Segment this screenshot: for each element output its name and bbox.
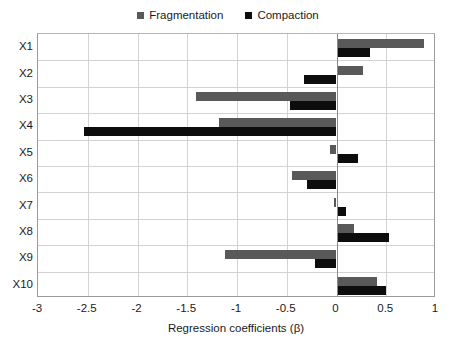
- y-axis-label-x8: X8: [0, 225, 33, 237]
- legend-swatch-fragmentation: [137, 12, 144, 19]
- chart-legend: Fragmentation Compaction: [0, 6, 456, 24]
- legend-swatch-compaction: [245, 12, 252, 19]
- x-axis-tick-labels: -3-2.5-2-1.5-1-0.500.51: [0, 302, 456, 318]
- x-axis-tick-8: 1: [432, 302, 438, 315]
- y-axis-label-x4: X4: [0, 119, 33, 131]
- regression-coefficients-chart: Fragmentation Compaction X1X2X3X4X5X6X7X…: [0, 0, 456, 350]
- legend-item-compaction: Compaction: [245, 9, 318, 21]
- x-axis-tick-1: -2.5: [77, 302, 97, 315]
- x-axis-tick-0: -3: [32, 302, 42, 315]
- zero-baseline-rule: [337, 34, 338, 296]
- y-axis-label-x7: X7: [0, 199, 33, 211]
- zero-baseline: [38, 34, 434, 296]
- y-axis-label-x3: X3: [0, 93, 33, 105]
- y-axis-label-x1: X1: [0, 40, 33, 52]
- legend-item-fragmentation: Fragmentation: [137, 9, 223, 21]
- y-axis-label-x10: X10: [0, 278, 33, 290]
- x-axis-tick-3: -1.5: [176, 302, 196, 315]
- y-axis-label-x9: X9: [0, 251, 33, 263]
- y-axis-label-x6: X6: [0, 172, 33, 184]
- legend-label-compaction: Compaction: [257, 9, 318, 21]
- x-axis-tick-6: 0: [332, 302, 338, 315]
- x-axis-tick-2: -2: [131, 302, 141, 315]
- x-axis-tick-5: -0.5: [276, 302, 296, 315]
- x-axis-tick-7: 0.5: [377, 302, 393, 315]
- x-axis-title: Regression coefficients (β): [37, 322, 435, 335]
- y-axis-labels: X1X2X3X4X5X6X7X8X9X10: [0, 33, 33, 297]
- y-axis-label-x2: X2: [0, 67, 33, 79]
- y-axis-label-x5: X5: [0, 146, 33, 158]
- plot-area: [37, 33, 435, 297]
- legend-label-fragmentation: Fragmentation: [149, 9, 223, 21]
- x-axis-tick-4: -1: [231, 302, 241, 315]
